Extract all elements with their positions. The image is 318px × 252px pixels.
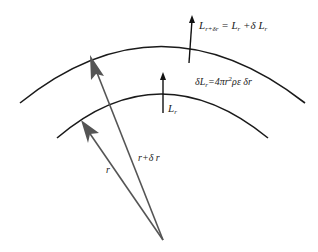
luminosity-outer-arrowhead-icon xyxy=(189,15,195,23)
radius-r-plus-dr-arrow xyxy=(92,60,163,240)
radius-r-arrow xyxy=(84,125,163,240)
label-shell-increment: δLr=4πr2ρε δr xyxy=(195,75,252,89)
label-radius-r-plus-dr: r+δ r xyxy=(138,152,160,163)
label-inner-luminosity: Lr xyxy=(168,102,177,116)
luminosity-outer-arrow xyxy=(189,20,192,63)
luminosity-inner-arrowhead-icon xyxy=(160,72,166,80)
label-top-luminosity: Lr+δr = Lr +δ Lr xyxy=(199,19,267,33)
shell-diagram xyxy=(0,0,318,252)
label-radius-r: r xyxy=(106,164,110,175)
radius-r-arrowhead-icon xyxy=(81,120,99,143)
